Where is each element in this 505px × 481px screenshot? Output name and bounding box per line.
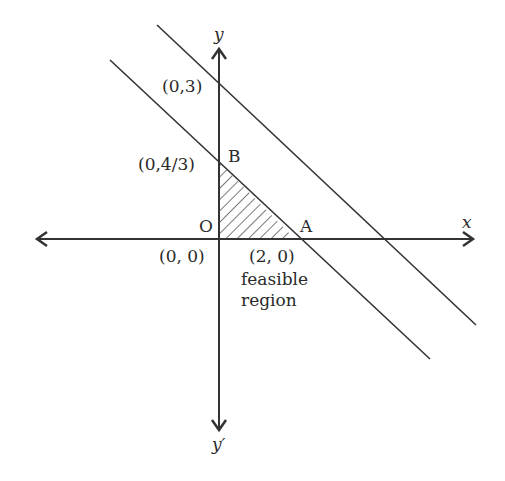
point-a-label: A bbox=[299, 216, 313, 236]
point-c-coord: (0,3) bbox=[162, 76, 202, 96]
origin-coord: (0, 0) bbox=[159, 246, 205, 266]
x-axis-label: x bbox=[462, 212, 472, 232]
y-axis-label: y bbox=[213, 24, 224, 44]
region-label-line1: feasible bbox=[241, 269, 308, 289]
region-label-line2: region bbox=[241, 290, 297, 310]
point-b-label: B bbox=[228, 146, 241, 166]
y-neg-axis-label: y′ bbox=[211, 434, 226, 454]
constraint-line-upper bbox=[157, 25, 476, 325]
diagram-canvas: y x y′ (0,3) B (0,4/3) O (0, 0) A (2, 0)… bbox=[0, 0, 505, 481]
point-a-coord: (2, 0) bbox=[249, 246, 295, 266]
point-b-coord: (0,4/3) bbox=[138, 154, 195, 174]
constraint-line-lower bbox=[110, 60, 430, 359]
origin-label: O bbox=[199, 216, 213, 236]
